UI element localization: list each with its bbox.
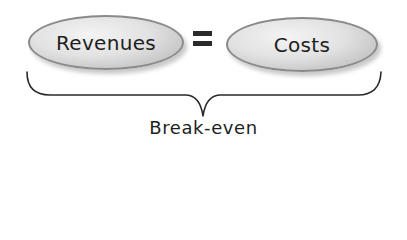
break-even-label: Break-even <box>0 117 407 138</box>
